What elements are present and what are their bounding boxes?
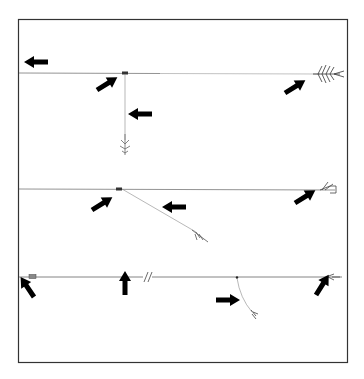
arrow-icon (24, 56, 48, 68)
line-connector (29, 275, 36, 279)
swivel (116, 188, 122, 191)
arrow-icon (94, 72, 121, 95)
arrow-icon (119, 271, 131, 295)
fishing-rig-diagram (0, 0, 364, 379)
dropper-fly-icon (251, 310, 258, 319)
dropper-fly-icon (192, 230, 208, 242)
point-fly-icon (320, 182, 336, 193)
rig-bottom (16, 271, 342, 319)
arrow-icon (216, 294, 240, 306)
frame (19, 20, 348, 363)
arrow-icon (292, 185, 319, 208)
arrow-icon (89, 192, 116, 215)
arrow-icon (162, 201, 186, 213)
arrow-icon (128, 108, 152, 120)
break-mark-icon (144, 272, 152, 282)
dropper-fly-icon (120, 134, 130, 155)
point-fly-icon (313, 65, 344, 83)
rig-middle (19, 182, 336, 242)
arrow-icon (282, 75, 309, 98)
rig-top (19, 56, 344, 155)
